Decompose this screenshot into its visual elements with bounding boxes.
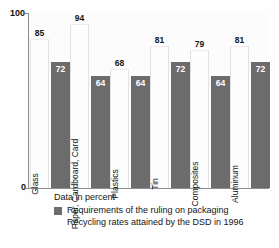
bar-requirement: 72 bbox=[171, 62, 190, 188]
bar-value-label: 64 bbox=[216, 78, 225, 88]
y-axis-min-tick-label: 0 bbox=[21, 182, 26, 192]
bar-value-label: 85 bbox=[35, 28, 44, 38]
legend-entry-requirements: Requirements of the ruling on packaging bbox=[67, 205, 244, 217]
bar-recycling-rate: 85Glass bbox=[30, 39, 49, 188]
bar-recycling-rate: 68Plastics bbox=[110, 69, 129, 188]
bar-recycling-rate: 81Tin bbox=[150, 46, 169, 188]
y-axis-min-tick-mark bbox=[25, 188, 29, 189]
bar-value-label: 94 bbox=[75, 13, 84, 23]
bar-requirement: 64 bbox=[91, 76, 110, 188]
bar-value-label: 81 bbox=[235, 35, 244, 45]
legend-entry-recycling-rates: Recycling rates attained by the DSD in 1… bbox=[67, 217, 244, 229]
bar-value-label: 64 bbox=[136, 78, 145, 88]
legend-entry-labels: Requirements of the ruling on packaging … bbox=[67, 205, 244, 228]
bar-value-label: 72 bbox=[56, 64, 65, 74]
bar-requirement: 64 bbox=[131, 76, 150, 188]
bar-recycling-rate: 79Composites bbox=[190, 50, 209, 188]
category-axis-label: Glass bbox=[30, 173, 40, 195]
bar-recycling-rate: 81Aluminum bbox=[230, 46, 249, 188]
category-axis-label: Tin bbox=[150, 178, 160, 190]
bar-value-label: 79 bbox=[195, 39, 204, 49]
chart-legend: Data in percent Requirements of the ruli… bbox=[54, 192, 269, 228]
bar-value-label: 72 bbox=[176, 64, 185, 74]
legend-units-note: Data in percent bbox=[54, 192, 269, 202]
bar-value-label: 81 bbox=[155, 35, 164, 45]
bar-value-label: 64 bbox=[96, 78, 105, 88]
legend-swatch-dark bbox=[54, 207, 62, 215]
legend-entries-row: Requirements of the ruling on packaging … bbox=[54, 205, 269, 228]
bar-requirement: 72 bbox=[51, 62, 70, 188]
bar-requirement: 64 bbox=[211, 76, 230, 188]
bar-requirement: 72 bbox=[251, 62, 270, 188]
bar-value-label: 68 bbox=[115, 58, 124, 68]
bars-layer: 85Glass7294Paper, Cardboard, Card6468Pla… bbox=[29, 13, 269, 188]
bar-chart-figure: 100 0 85Glass7294Paper, Cardboard, Card6… bbox=[0, 0, 279, 248]
bar-group: 68Plastics64 bbox=[110, 13, 150, 188]
bar-value-label: 72 bbox=[256, 64, 265, 74]
bar-group: 85Glass72 bbox=[30, 13, 70, 188]
bar-group: 79Composites64 bbox=[190, 13, 230, 188]
bar-group: 81Aluminum72 bbox=[230, 13, 270, 188]
bar-group: 94Paper, Cardboard, Card64 bbox=[70, 13, 110, 188]
bar-recycling-rate: 94Paper, Cardboard, Card bbox=[70, 24, 89, 189]
bar-group: 81Tin72 bbox=[150, 13, 190, 188]
y-axis-max-tick-label: 100 bbox=[10, 8, 25, 18]
